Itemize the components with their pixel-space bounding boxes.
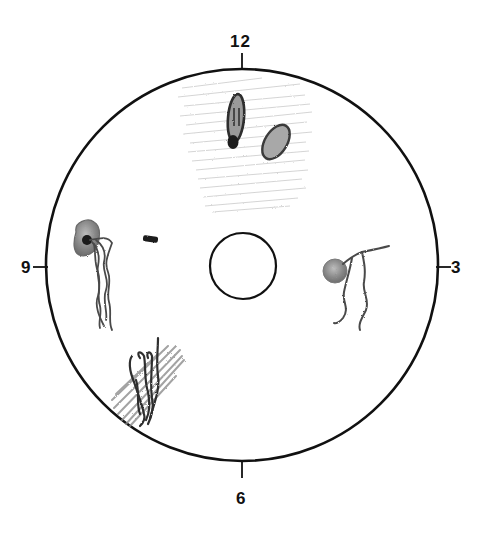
sketch-9-oclock (74, 220, 158, 330)
dark-dash-mark (143, 235, 159, 243)
sketch-7-oclock (112, 338, 184, 426)
clock-dial-diagram (0, 0, 477, 534)
label-9-oclock: 9 (21, 259, 30, 276)
curled-strands (130, 338, 159, 426)
sketch-3-oclock (323, 246, 389, 330)
label-12-oclock: 12 (230, 33, 251, 50)
tendrils (334, 246, 389, 330)
center-hole-circle (210, 233, 276, 299)
label-3-oclock: 3 (451, 259, 460, 276)
label-6-oclock: 6 (236, 490, 245, 507)
sketch-12-oclock (178, 78, 312, 212)
light-hatching (178, 78, 312, 212)
